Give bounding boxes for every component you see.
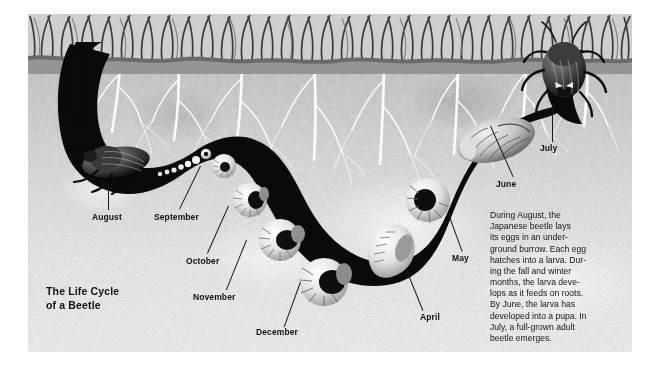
leader-line-august — [108, 184, 109, 210]
leader-line-july — [552, 106, 553, 142]
larva-may — [406, 178, 450, 223]
label-september: September — [154, 213, 199, 222]
label-may: May — [452, 254, 469, 263]
label-october: October — [186, 257, 219, 266]
label-july: July — [540, 144, 557, 153]
label-august: August — [92, 213, 122, 222]
label-june: June — [496, 180, 516, 189]
figure-title: The Life Cycle of a Beetle — [46, 284, 119, 312]
figure-caption: During August, the Japanese beetle lays … — [490, 210, 608, 344]
label-december: December — [256, 328, 298, 337]
label-april: April — [420, 313, 440, 322]
larva-december — [299, 258, 352, 306]
beetle-life-cycle-illustration: August September October November Decemb… — [28, 14, 632, 352]
label-november: November — [193, 293, 235, 302]
larva-october — [233, 183, 269, 218]
larva-september — [212, 154, 236, 178]
larva-november — [259, 219, 305, 261]
